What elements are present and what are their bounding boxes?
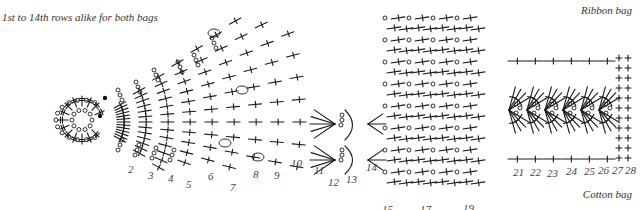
chain-icon [431, 38, 435, 42]
chain-icon [170, 153, 174, 157]
single-crochet-icon [261, 40, 273, 46]
single-crochet-icon [415, 169, 429, 175]
chain-icon [88, 124, 92, 128]
row-label: 12 [328, 176, 340, 188]
chain-icon [156, 78, 160, 82]
single-crochet-icon [463, 147, 477, 153]
single-crochet-icon [625, 155, 631, 161]
single-crochet-icon [625, 125, 631, 131]
single-crochet-icon [508, 58, 525, 64]
chain-icon [90, 118, 94, 122]
single-crochet-icon [463, 15, 477, 21]
row-label: 22 [530, 166, 542, 178]
single-crochet-icon [439, 37, 453, 43]
single-crochet-icon [415, 37, 429, 43]
chain-icon [134, 80, 138, 84]
single-crochet-icon [463, 169, 477, 175]
single-crochet-icon [439, 59, 453, 65]
double-crochet-icon [79, 96, 85, 106]
single-crochet-icon [161, 127, 174, 133]
chain-icon [407, 126, 411, 130]
row-label: 3 [147, 169, 154, 181]
single-crochet-icon [616, 145, 622, 151]
single-crochet-icon [290, 74, 303, 80]
chain-icon [572, 106, 576, 110]
chain-icon [150, 156, 154, 160]
chain-icon [88, 112, 92, 116]
single-crochet-icon [508, 156, 525, 162]
row-label: 13 [346, 173, 358, 185]
chain-icon [455, 16, 459, 20]
single-crochet-icon [178, 79, 190, 85]
single-crochet-icon [205, 132, 218, 138]
chain-icon [536, 106, 540, 110]
chain-icon [194, 58, 198, 62]
row-label: 8 [253, 168, 259, 180]
chain-icon [431, 104, 435, 108]
chain-icon [118, 143, 122, 147]
chain-icon [83, 128, 87, 132]
chain-icon [431, 82, 435, 86]
single-crochet-icon [391, 169, 405, 175]
stitch-line [314, 110, 335, 124]
chain-icon [407, 82, 411, 86]
row-label: 6 [208, 170, 214, 182]
single-crochet-icon [544, 156, 561, 162]
chain-icon [383, 148, 387, 152]
single-crochet-icon [255, 22, 267, 28]
chain-icon [154, 146, 158, 150]
chain-icon [407, 104, 411, 108]
single-crochet-icon [229, 18, 240, 24]
chain-icon [383, 126, 387, 130]
chain-icon [455, 170, 459, 174]
mesh-section [383, 15, 485, 186]
single-crochet-icon [616, 55, 622, 61]
chain-icon [152, 151, 156, 155]
chain-icon [133, 153, 137, 157]
single-crochet-icon [249, 119, 262, 125]
single-crochet-icon [562, 156, 579, 162]
single-crochet-icon [625, 65, 631, 71]
single-crochet-icon [183, 119, 196, 125]
single-crochet-icon [616, 95, 622, 101]
single-crochet-icon [139, 114, 152, 120]
row-label: 15 [382, 203, 394, 210]
single-crochet-icon [265, 60, 278, 66]
single-crochet-icon [415, 59, 429, 65]
row-label: 28 [625, 164, 637, 176]
stitch-line [311, 153, 335, 160]
single-crochet-icon [199, 69, 211, 75]
double-crochet-icon [60, 109, 69, 115]
single-crochet-icon [159, 96, 172, 102]
row-label: 10 [291, 157, 303, 169]
single-crochet-icon [282, 31, 294, 37]
single-crochet-icon [292, 97, 305, 103]
chain-icon [77, 128, 81, 132]
chain-icon [172, 148, 176, 152]
single-crochet-icon [271, 119, 284, 125]
stitch-line [368, 150, 383, 160]
single-crochet-icon [201, 81, 214, 87]
chain-icon [116, 148, 120, 152]
single-crochet-icon [616, 75, 622, 81]
single-crochet-icon [248, 101, 261, 107]
single-crochet-icon [161, 119, 174, 125]
row-label: 24 [566, 165, 578, 177]
single-crochet-icon [580, 156, 597, 162]
single-crochet-icon [292, 141, 305, 147]
chain-icon [116, 88, 120, 92]
single-crochet-icon [205, 106, 218, 112]
single-crochet-icon [562, 58, 579, 64]
single-crochet-icon [439, 81, 453, 87]
chain-icon [340, 113, 344, 117]
single-crochet-icon [526, 156, 543, 162]
row-label: 17 [420, 203, 432, 210]
chain-icon [407, 16, 411, 20]
chain-icon [590, 106, 594, 110]
row-label: 11 [314, 164, 324, 176]
single-crochet-icon [205, 119, 218, 125]
chain-icon [431, 170, 435, 174]
single-crochet-icon [178, 160, 190, 166]
slip-stitch-icon [98, 114, 102, 118]
chain-icon [56, 111, 60, 115]
